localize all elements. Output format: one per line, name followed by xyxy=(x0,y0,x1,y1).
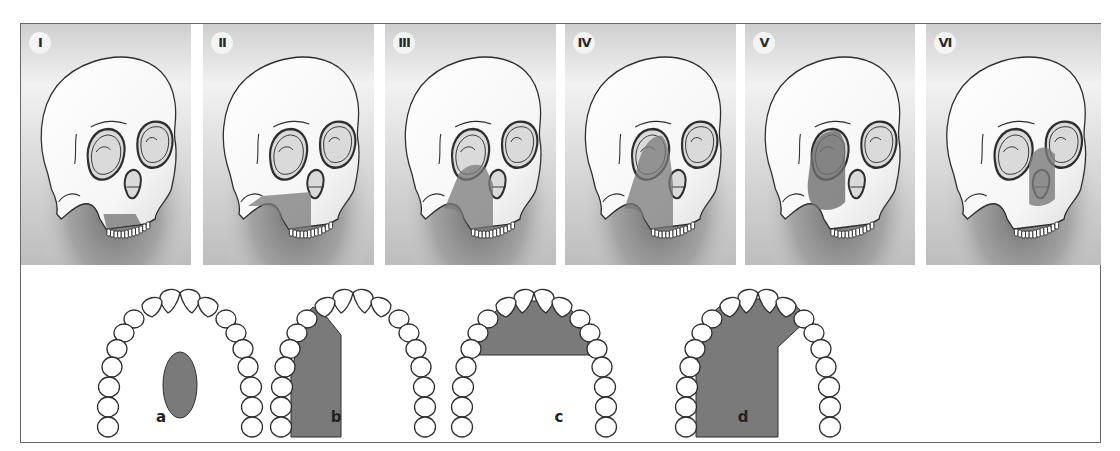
palate-label: a xyxy=(151,408,171,426)
palate-illustration xyxy=(90,275,270,445)
palate-label: b xyxy=(326,408,346,426)
skull-illustration xyxy=(385,24,556,265)
panel-label: VI xyxy=(934,32,956,54)
skull-panel-2: II xyxy=(203,24,374,265)
palate-illustration xyxy=(263,275,443,445)
skull-illustration xyxy=(926,24,1101,265)
skull-illustration xyxy=(21,24,191,265)
skull-illustration xyxy=(203,24,374,265)
panel-label: III xyxy=(393,32,415,54)
skull-panel-3: III xyxy=(385,24,556,265)
skull-panel-4: IV xyxy=(565,24,736,265)
skull-illustration xyxy=(745,24,915,265)
palate-diagram-b xyxy=(263,275,443,449)
panel-label: IV xyxy=(573,32,595,54)
skull-panel-5: V xyxy=(745,24,915,265)
palate-label: d xyxy=(733,408,753,426)
palate-label: c xyxy=(549,408,569,426)
panel-label: II xyxy=(211,32,233,54)
defect-region xyxy=(1029,148,1055,206)
palate-diagram-c xyxy=(444,275,624,449)
palate-illustration xyxy=(668,275,848,445)
skull-panel-1: I xyxy=(21,24,191,265)
palate-illustration xyxy=(444,275,624,445)
panel-label: I xyxy=(29,32,51,54)
palate-diagram-d xyxy=(668,275,848,449)
skull-illustration xyxy=(565,24,736,265)
panel-label: V xyxy=(753,32,775,54)
skull-panel-6: VI xyxy=(926,24,1101,265)
palate-diagram-a xyxy=(90,275,270,449)
